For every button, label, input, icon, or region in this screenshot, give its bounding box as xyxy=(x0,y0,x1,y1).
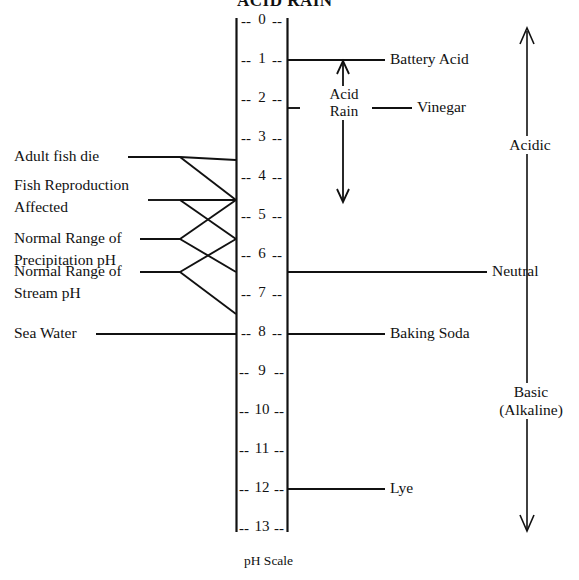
tick-dash-right: -- xyxy=(272,247,282,264)
right-label-neutral: Neutral xyxy=(492,262,538,280)
ph-scale-diagram: ACID RAIN xyxy=(0,0,579,580)
tick-dash-right: -- xyxy=(274,403,284,420)
tick-dash-right: -- xyxy=(272,169,282,186)
connector-normal-range-precipitation-ph xyxy=(140,200,236,272)
acid-rain-label-line: Rain xyxy=(316,103,372,120)
tick-dash-right: -- xyxy=(272,208,282,225)
left-label-line: Normal Range of xyxy=(14,262,122,280)
tick-label: 10 xyxy=(248,401,276,418)
left-label-line: Affected xyxy=(14,198,68,216)
tick-dash-right: -- xyxy=(274,442,284,459)
tick-dash-right: -- xyxy=(272,52,282,69)
right-label-baking-soda: Baking Soda xyxy=(390,324,470,342)
left-label-line: Normal Range of xyxy=(14,229,122,247)
connector-fish-reproduction-affected xyxy=(148,200,236,239)
acid-rain-arrow xyxy=(337,61,349,202)
tick-dash-right: -- xyxy=(274,520,284,537)
right-label-battery-acid: Battery Acid xyxy=(390,50,469,68)
left-label-adult-fish-die: Adult fish die xyxy=(14,147,99,165)
tick-dash-right: -- xyxy=(272,13,282,30)
left-label-line: Stream pH xyxy=(14,284,81,302)
tick-dash-right: -- xyxy=(272,325,282,342)
connector-normal-range-stream-ph xyxy=(140,239,236,314)
right-label-lye: Lye xyxy=(390,479,413,497)
left-label-line: Fish Reproduction xyxy=(14,176,129,194)
zone-label-line: Basic xyxy=(489,383,573,401)
left-label-sea-water: Sea Water xyxy=(14,324,77,342)
zone-label-acidic: Acidic xyxy=(499,136,561,154)
right-label-vinegar: Vinegar xyxy=(417,98,466,116)
tick-dash-right: -- xyxy=(274,481,284,498)
acid-rain-label: Acid Rain xyxy=(316,86,372,120)
connector-adult-fish-die xyxy=(128,157,236,200)
tick-label: 12 xyxy=(248,479,276,496)
right-connector-lines xyxy=(287,60,487,489)
tick-dash-right: -- xyxy=(272,91,282,108)
acid-rain-label-line: Acid xyxy=(316,86,372,103)
tick-dash-right: -- xyxy=(274,364,284,381)
tick-label: 9 xyxy=(248,362,276,379)
zone-label-line: (Alkaline) xyxy=(489,401,573,419)
tick-dash-right: -- xyxy=(272,286,282,303)
tick-label: 11 xyxy=(248,440,276,457)
tick-label: 13 xyxy=(248,518,276,535)
diagram-vector-layer xyxy=(0,0,579,580)
diagram-caption: pH Scale xyxy=(244,553,293,569)
zone-label-basic: Basic (Alkaline) xyxy=(489,383,573,419)
tick-dash-right: -- xyxy=(272,130,282,147)
